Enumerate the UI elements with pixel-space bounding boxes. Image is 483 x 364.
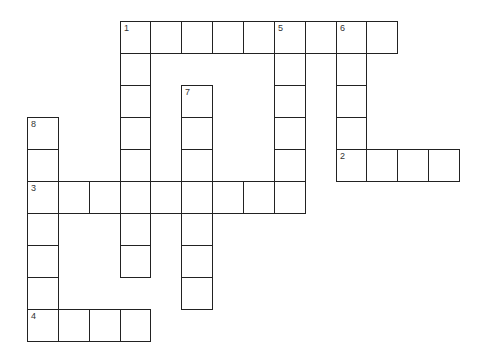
crossword-cell[interactable] xyxy=(150,181,182,214)
clue-number-label: 3 xyxy=(31,184,36,193)
crossword-cell[interactable] xyxy=(305,21,337,54)
crossword-cell[interactable] xyxy=(181,245,213,278)
crossword-cell[interactable] xyxy=(27,277,59,310)
crossword-cell[interactable] xyxy=(336,85,367,118)
clue-number-label: 4 xyxy=(31,312,36,321)
crossword-cell[interactable] xyxy=(274,53,306,86)
crossword-cell[interactable]: 5 xyxy=(274,21,306,54)
crossword-cell[interactable]: 4 xyxy=(27,309,59,342)
clue-number-label: 2 xyxy=(340,152,345,161)
crossword-cell[interactable] xyxy=(366,149,398,182)
crossword-cell[interactable]: 3 xyxy=(27,181,59,214)
crossword-cell[interactable] xyxy=(150,21,182,54)
crossword-cell[interactable] xyxy=(27,213,59,246)
crossword-cell[interactable] xyxy=(58,181,90,214)
clue-number-label: 5 xyxy=(278,24,283,33)
crossword-cell[interactable] xyxy=(58,309,90,342)
crossword-cell[interactable] xyxy=(120,309,151,342)
crossword-cell[interactable] xyxy=(181,181,213,214)
crossword-cell[interactable] xyxy=(274,117,306,150)
crossword-cell[interactable] xyxy=(120,213,151,246)
clue-number-label: 7 xyxy=(185,88,190,97)
crossword-cell[interactable] xyxy=(181,213,213,246)
crossword-cell[interactable] xyxy=(89,181,121,214)
crossword-cell[interactable] xyxy=(274,181,306,214)
crossword-cell[interactable] xyxy=(181,149,213,182)
crossword-cell[interactable] xyxy=(397,149,429,182)
crossword-cell[interactable] xyxy=(89,309,121,342)
crossword-cell[interactable] xyxy=(366,21,398,54)
crossword-cell[interactable] xyxy=(181,21,213,54)
crossword-cell[interactable] xyxy=(336,53,367,86)
crossword-cell[interactable] xyxy=(120,117,151,150)
crossword-cell[interactable]: 1 xyxy=(120,21,151,54)
crossword-cell[interactable] xyxy=(428,149,460,182)
crossword-cell[interactable] xyxy=(120,85,151,118)
crossword-cell[interactable] xyxy=(336,117,367,150)
crossword-cell[interactable] xyxy=(181,117,213,150)
crossword-cell[interactable]: 8 xyxy=(27,117,59,150)
crossword-cell[interactable] xyxy=(120,245,151,278)
crossword-cell[interactable] xyxy=(181,277,213,310)
crossword-cell[interactable] xyxy=(274,85,306,118)
crossword-cell[interactable]: 6 xyxy=(336,21,367,54)
crossword-cell[interactable]: 7 xyxy=(181,85,213,118)
crossword-grid: 15627834 xyxy=(0,0,483,364)
clue-number-label: 6 xyxy=(340,24,345,33)
crossword-cell[interactable] xyxy=(274,149,306,182)
crossword-cell[interactable] xyxy=(120,149,151,182)
crossword-cell[interactable]: 2 xyxy=(336,149,367,182)
crossword-cell[interactable] xyxy=(243,181,275,214)
crossword-cell[interactable] xyxy=(212,181,244,214)
clue-number-label: 1 xyxy=(124,24,129,33)
crossword-cell[interactable] xyxy=(27,149,59,182)
crossword-cell[interactable] xyxy=(212,21,244,54)
crossword-cell[interactable] xyxy=(120,181,151,214)
clue-number-label: 8 xyxy=(31,120,36,129)
crossword-cell[interactable] xyxy=(27,245,59,278)
crossword-cell[interactable] xyxy=(243,21,275,54)
crossword-cell[interactable] xyxy=(120,53,151,86)
